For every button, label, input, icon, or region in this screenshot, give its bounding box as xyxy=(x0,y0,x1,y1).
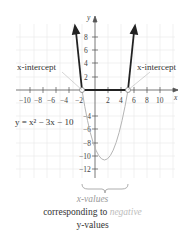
svg-text:6: 6 xyxy=(84,46,88,55)
brace xyxy=(82,184,128,193)
negative-word: negative xyxy=(110,207,142,217)
caption-line1: x-values xyxy=(0,194,185,204)
highlight xyxy=(73,26,137,90)
svg-text:2: 2 xyxy=(84,73,88,82)
svg-text:−8: −8 xyxy=(83,139,91,148)
equation-label: y = x² − 3x − 10 xyxy=(15,117,73,127)
svg-text:8: 8 xyxy=(145,96,149,105)
svg-text:y: y xyxy=(86,13,91,22)
caption-text: corresponding to xyxy=(43,207,110,217)
caption-line2: corresponding to negative xyxy=(0,207,185,217)
svg-text:4: 4 xyxy=(84,59,88,68)
x-intercept-left-label: x-intercept xyxy=(17,62,56,72)
x-intercept-right-label: x-intercept xyxy=(137,62,176,72)
svg-text:x: x xyxy=(173,93,178,102)
svg-text:2: 2 xyxy=(106,96,110,105)
svg-text:−4: −4 xyxy=(60,96,68,105)
svg-text:−10: −10 xyxy=(79,152,91,161)
svg-text:−6: −6 xyxy=(47,96,55,105)
svg-text:4: 4 xyxy=(119,96,123,105)
svg-text:10: 10 xyxy=(156,96,164,105)
svg-text:−8: −8 xyxy=(34,96,42,105)
svg-text:−2: −2 xyxy=(75,96,83,105)
svg-text:−12: −12 xyxy=(79,165,91,174)
svg-text:−10: −10 xyxy=(19,96,31,105)
svg-text:8: 8 xyxy=(84,33,88,42)
caption-line3: y-values xyxy=(0,220,185,230)
svg-text:6: 6 xyxy=(132,96,136,105)
